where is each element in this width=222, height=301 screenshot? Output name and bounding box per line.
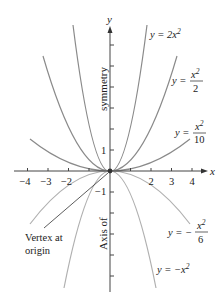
tick-label: −2: [61, 176, 72, 187]
tick-label: 1: [101, 145, 106, 156]
equation-x2-tenth-lhs: y =: [174, 127, 189, 138]
equation-x2-half-den: 2: [193, 83, 198, 94]
tick-label: −3: [40, 176, 51, 187]
tick-label: −1: [95, 186, 106, 197]
equation-x2-tenth-den: 10: [194, 134, 205, 145]
equation-neg-x2-sixth-den: 6: [198, 234, 203, 245]
axis-of-label: Axis of: [97, 217, 109, 250]
y-axis-label: y: [106, 13, 112, 25]
vertex-dot: [108, 169, 113, 174]
symmetry-label: symmetry: [97, 67, 109, 111]
tick-label: 3: [169, 176, 174, 187]
equation-x2-half-num: x2: [190, 67, 200, 80]
equation-neg-x2-sixth-lhs: y = −: [167, 227, 192, 238]
parabola-diagram: x y −4 −3 −2 2 3 4 1 −1 symmetry Axis of…: [0, 0, 222, 301]
equation-neg-x2-sixth-num: x2: [196, 218, 206, 231]
x-axis-arrow-icon: [201, 169, 208, 174]
tick-label: 4: [189, 176, 195, 187]
equation-2x2: y = 2x2: [149, 27, 181, 40]
tick-label: 2: [148, 176, 153, 187]
equation-x2-tenth-num: x2: [194, 119, 204, 132]
equation-x2-half-lhs: y =: [171, 75, 186, 86]
x-axis-label: x: [209, 165, 215, 177]
tick-label: −4: [19, 176, 31, 187]
vertex-label-line1: Vertex at: [25, 232, 63, 243]
equation-neg-x2: y = −x2: [156, 262, 190, 275]
vertex-label-line2: origin: [25, 245, 51, 256]
y-axis-arrow-icon: [108, 26, 113, 33]
